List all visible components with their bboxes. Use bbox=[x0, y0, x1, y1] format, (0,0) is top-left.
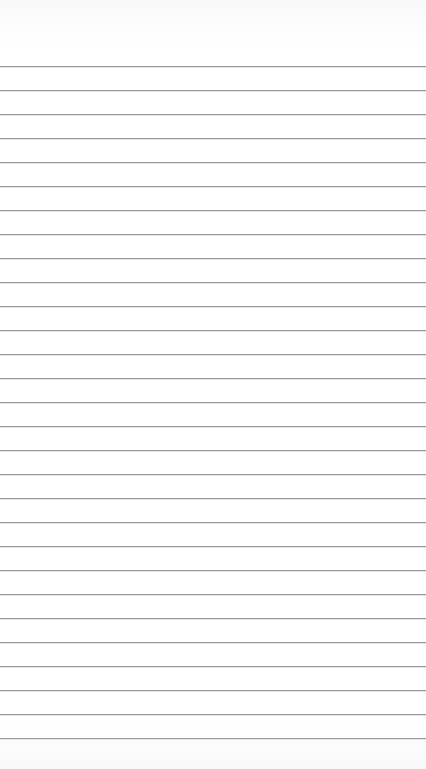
ruled-line bbox=[0, 522, 426, 523]
ruled-line bbox=[0, 114, 426, 115]
ruled-line bbox=[0, 738, 426, 739]
ruled-line bbox=[0, 474, 426, 475]
ruled-line bbox=[0, 402, 426, 403]
ruled-line bbox=[0, 162, 426, 163]
ruled-line bbox=[0, 426, 426, 427]
ruled-line bbox=[0, 234, 426, 235]
ruled-line bbox=[0, 714, 426, 715]
ruled-line bbox=[0, 330, 426, 331]
ruled-line bbox=[0, 282, 426, 283]
ruled-line bbox=[0, 186, 426, 187]
ruled-line bbox=[0, 354, 426, 355]
ruled-line bbox=[0, 570, 426, 571]
ruled-line bbox=[0, 618, 426, 619]
ruled-line bbox=[0, 690, 426, 691]
ruled-line bbox=[0, 594, 426, 595]
ruled-line bbox=[0, 378, 426, 379]
ruled-line bbox=[0, 66, 426, 67]
lined-paper-sheet bbox=[0, 0, 426, 769]
ruled-line bbox=[0, 210, 426, 211]
ruled-line bbox=[0, 666, 426, 667]
ruled-line bbox=[0, 306, 426, 307]
ruled-line bbox=[0, 90, 426, 91]
ruled-line bbox=[0, 450, 426, 451]
ruled-line bbox=[0, 642, 426, 643]
ruled-line bbox=[0, 498, 426, 499]
ruled-line bbox=[0, 258, 426, 259]
ruled-line bbox=[0, 546, 426, 547]
ruled-line bbox=[0, 138, 426, 139]
